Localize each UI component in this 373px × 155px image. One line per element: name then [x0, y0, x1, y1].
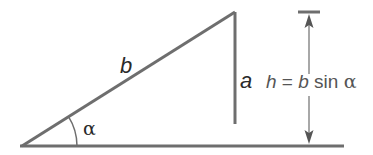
formula-b: b: [298, 71, 309, 92]
triangle-diagram: b a α h = b sin α: [0, 0, 373, 155]
angle-arc: [69, 117, 78, 146]
side-b: [22, 12, 235, 146]
formula-height: h = b sin α: [266, 70, 357, 92]
label-b: b: [120, 53, 132, 78]
label-alpha: α: [83, 117, 96, 139]
formula-equals: =: [277, 71, 299, 92]
formula-sin: sin: [309, 71, 344, 92]
formula-alpha: α: [344, 70, 357, 92]
label-a: a: [240, 68, 252, 93]
formula-h: h: [266, 71, 277, 92]
